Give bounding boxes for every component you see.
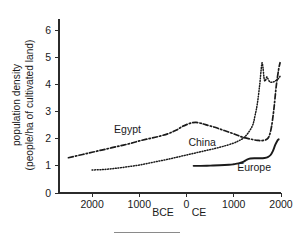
series-label-europe: Europe <box>237 161 271 173</box>
y-tick-label: 3 <box>45 105 51 117</box>
series-label-china: China <box>188 136 216 148</box>
x-tick-label: 2000 <box>80 198 104 210</box>
y-axis-title-line1: population density <box>11 63 22 146</box>
series-label-egypt: Egypt <box>114 123 141 135</box>
data-series-group <box>68 63 280 170</box>
series-line-china <box>92 63 280 170</box>
x-tick-label: 1000 <box>222 198 246 210</box>
footer-divider <box>114 232 180 233</box>
y-tick-label: 5 <box>45 51 51 63</box>
x-tick-label: 1000 <box>128 198 152 210</box>
series-line-egypt <box>68 63 280 158</box>
era-labels: BCE CE <box>152 206 206 218</box>
chart-canvas: 0123456 20001000010002000 EgyptChinaEuro… <box>0 0 294 243</box>
chart-figure: 0123456 20001000010002000 EgyptChinaEuro… <box>0 0 294 243</box>
y-axis-ticks: 0123456 <box>45 24 59 199</box>
y-tick-label: 6 <box>45 24 51 36</box>
y-tick-label: 0 <box>45 187 51 199</box>
y-tick-label: 1 <box>45 159 51 171</box>
y-axis-title: population density (people/ha of cultiva… <box>11 40 35 171</box>
y-tick-label: 4 <box>45 78 51 90</box>
x-tick-label: 2000 <box>269 198 293 210</box>
y-tick-label: 2 <box>45 132 51 144</box>
series-annotations: EgyptChinaEurope <box>114 123 271 174</box>
y-axis-title-line2: (people/ha of cultivated land) <box>24 40 35 171</box>
x-axis-ticks: 20001000010002000 <box>80 193 292 210</box>
x-tick-label: 0 <box>184 198 190 210</box>
bce-label: BCE <box>152 206 174 218</box>
ce-label: CE <box>192 206 207 218</box>
